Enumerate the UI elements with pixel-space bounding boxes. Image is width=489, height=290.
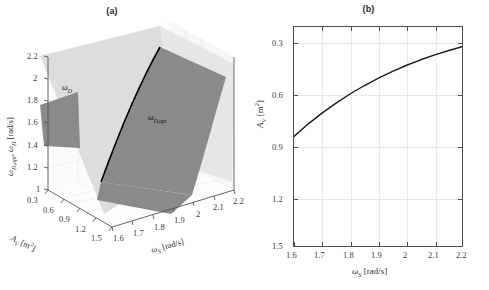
- panel-b-xtick-label-1.7: 1.7: [314, 250, 325, 260]
- panel-b-ytick-label-0.6: 0.6: [272, 90, 283, 100]
- panel-b-xtick-label-2.2: 2.2: [456, 250, 467, 260]
- panel-b-xtick-label-1.9: 1.9: [371, 250, 382, 260]
- panel-b-xtick-label-1.8: 1.8: [343, 250, 354, 260]
- panel-a-xtick-1.2: 1.2: [75, 224, 86, 234]
- panel-a-ytick-1.8: 1.8: [154, 222, 165, 232]
- panel-a-ytick-2.1: 2.1: [213, 202, 224, 212]
- panel-a-title: (a): [0, 6, 236, 16]
- panel-b-ytick-label-1.2: 1.2: [272, 194, 283, 204]
- panel-b-curve-layer: [294, 27, 462, 246]
- omega-D-surface-label: ωD: [62, 83, 72, 94]
- figure-canvas: (a): [0, 0, 489, 290]
- panel-b-y-axis-label: AV [m2]: [253, 100, 267, 128]
- panel-a: (a): [0, 0, 248, 290]
- panel-b-xtick-label-1.6: 1.6: [286, 250, 297, 260]
- panel-a-ztick-1: 1: [36, 184, 40, 194]
- panel-a-ytick-1.7: 1.7: [133, 228, 144, 238]
- panel-a-ztick-1.6: 1.6: [27, 117, 38, 127]
- xtick-2.2: [462, 242, 463, 246]
- omega-D-opt-surface-label: ωD,opt: [148, 113, 167, 124]
- panel-b-plot-area: [293, 26, 463, 247]
- panel-a-ytick-2: 2: [196, 209, 200, 219]
- ytick-1.5: [294, 246, 298, 247]
- panel-a-ytick-1.9: 1.9: [174, 215, 185, 225]
- panel-a-ztick-1.2: 1.2: [27, 162, 38, 172]
- panel-b-x-axis-label: ωS [rad/s]: [352, 266, 387, 278]
- panel-b-ytick-label-1.5: 1.5: [272, 241, 283, 251]
- av-optimal-curve: [294, 47, 462, 137]
- panel-a-ztick-1.8: 1.8: [27, 95, 38, 105]
- panel-b-ytick-label-0.9: 0.9: [272, 142, 283, 152]
- panel-a-xtick-0.9: 0.9: [59, 214, 70, 224]
- panel-b-ytick-label-0.3: 0.3: [272, 38, 283, 48]
- panel-a-xtick-1.5: 1.5: [91, 233, 102, 243]
- panel-b-xtick-label-2.1: 2.1: [428, 250, 439, 260]
- panel-b-xtick-label-2: 2: [403, 250, 407, 260]
- panel-a-xtick-0.6: 0.6: [43, 205, 54, 215]
- panel-a-ztick-2: 2: [33, 73, 37, 83]
- panel-b: (b): [248, 0, 489, 290]
- panel-a-ytick-2.2: 2.2: [233, 196, 244, 206]
- panel-a-xtick-0.3: 0.3: [27, 195, 38, 205]
- panel-a-ztick-1.4: 1.4: [27, 140, 38, 150]
- panel-a-ytick-1.6: 1.6: [113, 233, 124, 243]
- panel-b-title: (b): [248, 4, 489, 14]
- panel-a-z-axis-label: ωD,opt, ωD [rad/s]: [5, 117, 17, 176]
- panel-a-ztick-2.2: 2.2: [27, 51, 38, 61]
